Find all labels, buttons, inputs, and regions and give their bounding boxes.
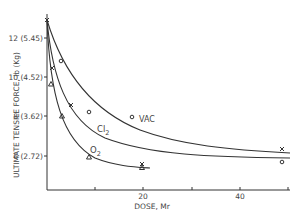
o2-curve — [47, 20, 150, 168]
vac-point — [130, 115, 134, 119]
x-tick-label: 20 — [138, 192, 148, 201]
y-tick-label: 12 (5.45) — [9, 34, 44, 43]
x-tick-label: 40 — [235, 192, 245, 201]
vac-curve — [47, 20, 290, 153]
curves — [47, 20, 290, 168]
vac-point — [280, 160, 284, 164]
vac-point — [87, 110, 91, 114]
tensile-force-chart: 12 (5.45) 10 (4.52) 8 (3.62) 6 (2.72) 20… — [0, 0, 295, 215]
x-axis-title: DOSE, Mr — [134, 202, 170, 211]
cl2-point — [280, 147, 284, 151]
vac-point — [59, 59, 63, 63]
vac-label: VAC — [139, 115, 155, 124]
axes — [44, 14, 290, 190]
y-axis-title: ULTIMATE TENSILE FORCE, lb (Kg) — [12, 52, 21, 178]
